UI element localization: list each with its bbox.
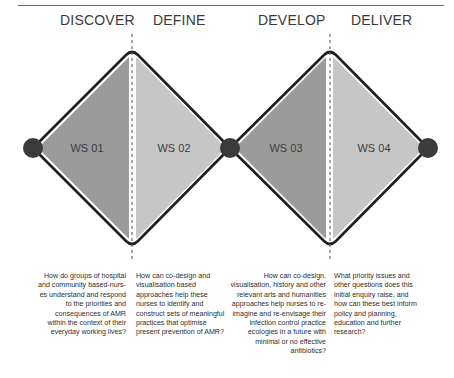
ws01-label: WS 01 <box>70 142 103 154</box>
ws03-label: WS 03 <box>269 142 302 154</box>
end-node <box>418 138 438 158</box>
mid-node <box>220 138 240 158</box>
start-node <box>23 138 43 158</box>
question-develop: How can co-design, visualisation, histor… <box>230 272 326 357</box>
question-discover: How do groups of hospital and community … <box>38 272 126 338</box>
question-deliver: What priority issues and other questions… <box>334 272 420 338</box>
ws04-label: WS 04 <box>357 142 390 154</box>
question-define: How can co-design and visualisation base… <box>136 272 226 338</box>
ws02-label: WS 02 <box>157 142 190 154</box>
